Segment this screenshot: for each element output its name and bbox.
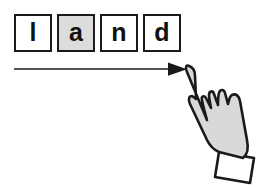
figure-canvas: l a n d (0, 0, 268, 188)
pointing-hand-icon (0, 0, 268, 188)
